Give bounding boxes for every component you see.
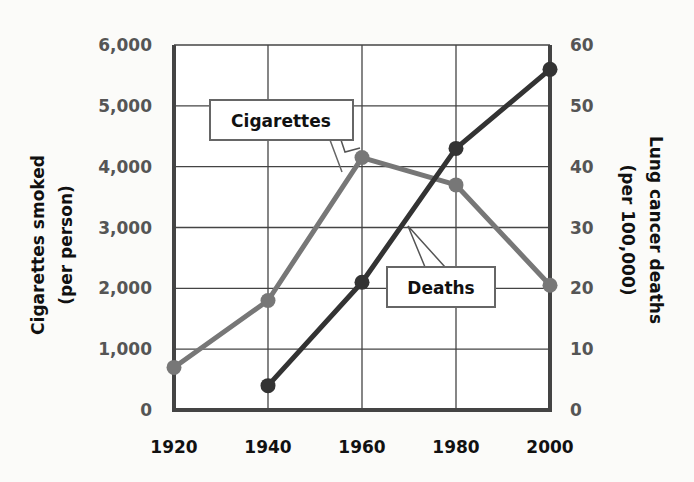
data-point	[167, 360, 182, 375]
data-point	[261, 378, 276, 393]
data-point	[355, 275, 370, 290]
right-tick-label: 20	[570, 278, 594, 298]
right-axis-label: Lung cancer deaths (per 100,000)	[618, 136, 666, 324]
right-tick-label: 30	[570, 218, 594, 238]
x-axis-ticks: 19201940196019802000	[150, 437, 573, 457]
cigarettes-label: Cigarettes	[231, 111, 331, 131]
right-tick-label: 0	[570, 400, 582, 420]
right-axis-label-line2: (per 100,000)	[618, 165, 638, 296]
left-tick-label: 5,000	[98, 96, 152, 116]
right-tick-label: 50	[570, 96, 594, 116]
right-tick-label: 10	[570, 339, 594, 359]
deaths-label: Deaths	[407, 278, 474, 298]
data-point	[543, 62, 558, 77]
right-axis-label-line1: Lung cancer deaths	[646, 136, 666, 324]
x-tick-label: 2000	[526, 437, 573, 457]
data-point	[449, 141, 464, 156]
left-tick-label: 0	[140, 400, 152, 420]
left-axis-ticks: 01,0002,0003,0004,0005,0006,000	[98, 35, 152, 420]
right-tick-label: 60	[570, 35, 594, 55]
left-axis-label: Cigarettes smoked (per person)	[28, 155, 76, 335]
left-axis-label-line2: (per person)	[56, 185, 76, 305]
left-axis-label-line1: Cigarettes smoked	[28, 155, 48, 335]
data-point	[449, 177, 464, 192]
x-tick-label: 1980	[432, 437, 479, 457]
data-point	[543, 278, 558, 293]
data-point	[261, 293, 276, 308]
line-chart: 01,0002,0003,0004,0005,0006,000 01020304…	[0, 0, 694, 482]
left-tick-label: 2,000	[98, 278, 152, 298]
left-tick-label: 4,000	[98, 157, 152, 177]
left-tick-label: 3,000	[98, 218, 152, 238]
x-tick-label: 1920	[150, 437, 197, 457]
right-axis-ticks: 0102030405060	[570, 35, 594, 420]
x-tick-label: 1940	[244, 437, 291, 457]
left-tick-label: 6,000	[98, 35, 152, 55]
right-tick-label: 40	[570, 157, 594, 177]
x-tick-label: 1960	[338, 437, 385, 457]
left-tick-label: 1,000	[98, 339, 152, 359]
data-point	[355, 150, 370, 165]
